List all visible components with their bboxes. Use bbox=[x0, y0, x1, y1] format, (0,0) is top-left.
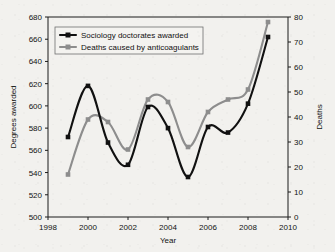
y-tick-label: 500 bbox=[29, 213, 43, 222]
data-point-gray bbox=[266, 20, 271, 25]
x-tick-label: 2008 bbox=[239, 223, 257, 232]
legend-marker-black bbox=[66, 33, 71, 38]
data-point-gray bbox=[186, 145, 191, 150]
data-point-gray bbox=[226, 97, 231, 102]
data-point-black bbox=[126, 162, 131, 167]
data-point-gray bbox=[246, 87, 251, 92]
data-point-black bbox=[66, 135, 71, 140]
x-tick-label: 2002 bbox=[119, 223, 137, 232]
data-point-black bbox=[226, 130, 231, 135]
chart-container: 5005205405605806006206406606800102030405… bbox=[0, 0, 335, 252]
y2-axis-title: Deaths bbox=[315, 104, 324, 129]
x-tick-label: 2006 bbox=[199, 223, 217, 232]
x-tick-label: 2004 bbox=[159, 223, 177, 232]
data-point-black bbox=[166, 126, 171, 131]
y-axis-title: Degrees awarded bbox=[9, 85, 18, 148]
y2-tick-label: 20 bbox=[294, 163, 303, 172]
y-tick-label: 620 bbox=[29, 80, 43, 89]
y2-tick-label: 80 bbox=[294, 13, 303, 22]
y2-tick-label: 60 bbox=[294, 63, 303, 72]
y-tick-label: 520 bbox=[29, 191, 43, 200]
data-point-gray bbox=[66, 172, 71, 177]
data-point-black bbox=[206, 125, 211, 130]
data-point-gray bbox=[86, 117, 91, 122]
data-point-gray bbox=[126, 147, 131, 152]
data-point-gray bbox=[146, 97, 151, 102]
data-point-black bbox=[246, 101, 251, 106]
y2-tick-label: 50 bbox=[294, 88, 303, 97]
y2-tick-label: 70 bbox=[294, 38, 303, 47]
x-axis-title: Year bbox=[160, 236, 177, 245]
data-point-black bbox=[146, 105, 151, 110]
y-tick-label: 560 bbox=[29, 146, 43, 155]
data-point-black bbox=[186, 175, 191, 180]
legend-label-gray: Deaths caused by anticoagulants bbox=[81, 43, 199, 52]
data-point-black bbox=[266, 35, 271, 40]
data-point-black bbox=[86, 84, 91, 89]
legend-label-black: Sociology doctorates awarded bbox=[81, 31, 188, 40]
y-tick-label: 640 bbox=[29, 57, 43, 66]
legend-marker-gray bbox=[66, 45, 71, 50]
y2-tick-label: 10 bbox=[294, 188, 303, 197]
x-tick-label: 1998 bbox=[39, 223, 57, 232]
x-tick-label: 2010 bbox=[279, 223, 297, 232]
y-tick-label: 600 bbox=[29, 102, 43, 111]
series-line-black bbox=[68, 37, 268, 177]
data-point-black bbox=[106, 140, 111, 145]
x-tick-label: 2000 bbox=[79, 223, 97, 232]
legend: Sociology doctorates awardedDeaths cause… bbox=[55, 27, 203, 54]
y2-tick-label: 0 bbox=[294, 213, 299, 222]
y-tick-label: 660 bbox=[29, 35, 43, 44]
y-tick-label: 680 bbox=[29, 13, 43, 22]
y2-tick-label: 30 bbox=[294, 138, 303, 147]
data-point-gray bbox=[166, 100, 171, 105]
data-point-gray bbox=[106, 120, 111, 125]
y2-tick-label: 40 bbox=[294, 113, 303, 122]
series-sociology-doctorates-awarded bbox=[66, 35, 271, 180]
y-tick-label: 540 bbox=[29, 169, 43, 178]
dual-axis-line-chart: 5005205405605806006206406606800102030405… bbox=[0, 0, 335, 252]
y-tick-label: 580 bbox=[29, 124, 43, 133]
data-point-gray bbox=[206, 110, 211, 115]
